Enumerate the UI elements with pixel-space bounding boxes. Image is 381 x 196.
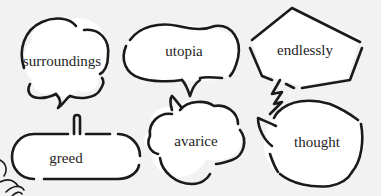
bubble-thought: thought — [258, 100, 364, 188]
bubble-surroundings: surroundings — [22, 18, 109, 108]
bubble-endlessly: endlessly — [250, 8, 362, 114]
bubble-label-utopia: utopia — [165, 43, 203, 59]
speech-bubbles-illustration: surroundings utopia endlessly greed — [0, 0, 381, 196]
bubble-avarice: avarice — [144, 96, 244, 184]
bubble-label-thought: thought — [294, 134, 341, 150]
bubble-label-greed: greed — [49, 150, 83, 166]
bubble-greed: greed — [12, 115, 140, 180]
bubble-label-surroundings: surroundings — [23, 53, 101, 69]
bubble-label-avarice: avarice — [174, 133, 218, 149]
bubble-label-endlessly: endlessly — [277, 42, 333, 58]
bubble-utopia: utopia — [124, 24, 239, 96]
